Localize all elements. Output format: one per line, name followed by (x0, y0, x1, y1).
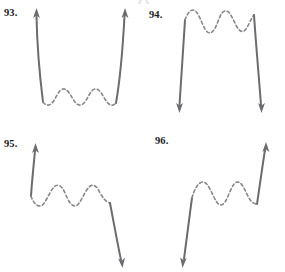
left-branch-solid-95 (31, 151, 35, 196)
curve-graphic-94 (143, 0, 285, 136)
right-branch-solid-95 (110, 203, 121, 260)
curve-graphic-96 (143, 136, 285, 272)
curve-graphic-93 (0, 0, 142, 136)
middle-oscillation-dashed-94 (185, 10, 254, 33)
left-branch-solid-93 (37, 16, 44, 102)
left-branch-solid-94 (180, 20, 186, 105)
curve-graphic-95 (0, 136, 142, 272)
figure-panel-96: 96. (143, 136, 285, 272)
right-branch-solid-96 (257, 150, 265, 204)
worksheet-page: 93. 94. 95. (0, 0, 285, 272)
middle-oscillation-dashed-93 (43, 89, 116, 105)
figure-panel-95: 95. (0, 136, 142, 272)
middle-oscillation-dashed-95 (31, 185, 110, 206)
figure-panel-93: 93. (0, 0, 142, 136)
figure-panel-94: 94. (143, 0, 285, 136)
right-branch-solid-93 (116, 16, 125, 103)
right-branch-solid-94 (254, 15, 261, 105)
left-branch-solid-96 (184, 198, 192, 259)
middle-oscillation-dashed-96 (192, 182, 257, 205)
